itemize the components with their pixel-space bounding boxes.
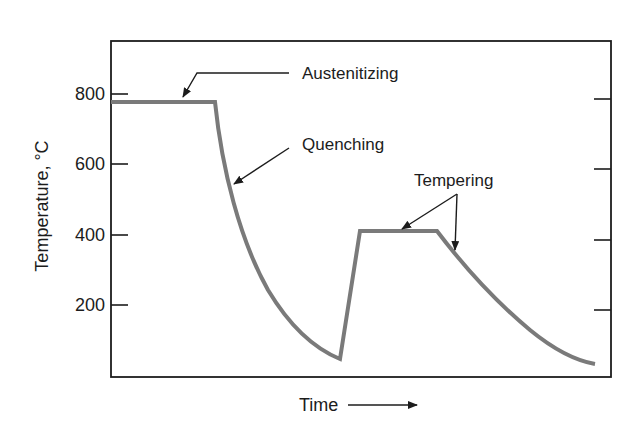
y-axis-title: Temperature, °C xyxy=(32,140,52,271)
annotation-tempering: Tempering xyxy=(414,171,493,190)
heat-treatment-chart: 800 600 400 200 Temperature, °C Time Aus… xyxy=(0,0,636,432)
annotation-quenching: Quenching xyxy=(302,135,384,154)
austenitizing-leader-arrow-icon xyxy=(183,73,289,97)
y-tick-label-400: 400 xyxy=(75,225,105,245)
y-tick-label-200: 200 xyxy=(75,295,105,315)
y-tick-label-600: 600 xyxy=(75,154,105,174)
tempering-leader-arrow-cooling-icon xyxy=(455,194,457,250)
quenching-leader-arrow-icon xyxy=(234,148,289,184)
y-axis-right-ticks xyxy=(594,99,611,310)
tempering-leader-arrow-plateau-icon xyxy=(402,194,457,229)
annotation-austenitizing: Austenitizing xyxy=(302,64,398,83)
x-axis-title: Time xyxy=(299,395,338,415)
y-axis-left-ticks xyxy=(111,94,128,305)
y-tick-label-800: 800 xyxy=(75,84,105,104)
